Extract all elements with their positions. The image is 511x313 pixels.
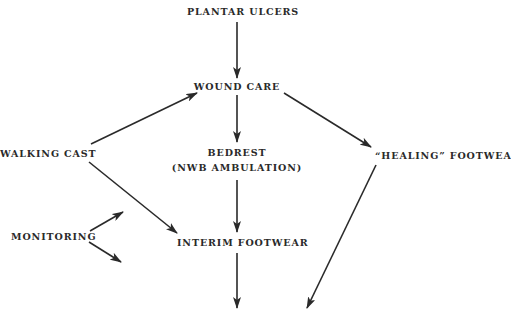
arrow-healing-down [307, 165, 376, 308]
arrow-woundcare-to-healing [284, 93, 371, 147]
arrow-cast-to-interim [89, 162, 177, 233]
arrow-monitoring-up [90, 212, 123, 231]
node-bedrest: BEDREST (NWB AMBULATION) [167, 145, 307, 175]
node-wound-care: WOUND CARE [192, 79, 282, 94]
arrow-monitoring-down [89, 242, 121, 262]
node-plantar-ulcers: PLANTAR ULCERS [187, 4, 287, 19]
bedrest-label: BEDREST [167, 145, 307, 160]
node-walking-cast: WALKING CAST [0, 146, 92, 161]
node-interim-footwear: INTERIM FOOTWEAR [177, 235, 297, 250]
node-monitoring: MONITORING [11, 229, 91, 244]
arrow-cast-to-woundcare [91, 93, 197, 144]
flow-diagram: PLANTAR ULCERS WOUND CARE WALKING CAST B… [0, 0, 511, 313]
bedrest-sublabel: (NWB AMBULATION) [167, 160, 307, 175]
node-healing-footwear: “HEALING” FOOTWEAR [375, 148, 511, 163]
